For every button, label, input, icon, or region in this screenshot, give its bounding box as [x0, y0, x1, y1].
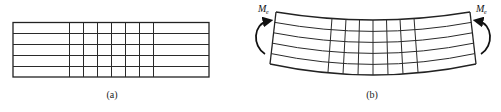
- curved-arrow-icon-right: [478, 21, 490, 54]
- curved-arrow-icon-left: [256, 21, 268, 54]
- beam-top-b: [276, 12, 470, 20]
- moment-right-subscript: e: [484, 9, 487, 15]
- vertical-lines-b: [328, 18, 418, 75]
- moment-left: M e: [256, 3, 269, 54]
- caption-b: (b): [366, 89, 378, 101]
- beam-right-end-b: [470, 12, 476, 64]
- panel-b-beam: [270, 12, 476, 75]
- caption-a: (a): [106, 89, 117, 101]
- vertical-lines-a: [70, 23, 154, 78]
- bending-diagram: (a) M e M: [0, 0, 501, 112]
- beam-left-end-b: [270, 12, 276, 64]
- panel-a-beam: [13, 23, 209, 78]
- moment-left-subscript: e: [266, 9, 269, 15]
- moment-right: M e: [475, 3, 490, 54]
